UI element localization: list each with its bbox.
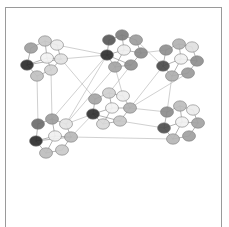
- graph-node: [130, 35, 143, 45]
- graph-node: [103, 88, 116, 98]
- inter-cluster-edge: [71, 137, 173, 139]
- inter-cluster-edge: [37, 76, 38, 124]
- graph-node: [186, 42, 199, 52]
- graph-node: [182, 68, 195, 78]
- graph-node: [158, 123, 171, 133]
- graph-node: [109, 62, 122, 72]
- graph-node: [32, 119, 45, 129]
- graph-node: [55, 54, 68, 64]
- graph-node: [167, 134, 180, 144]
- graph-node: [25, 43, 38, 53]
- network-graph-canvas: [0, 0, 229, 227]
- inter-cluster-edge: [61, 55, 107, 59]
- graph-node: [187, 105, 200, 115]
- graph-node: [176, 117, 189, 127]
- graph-node: [174, 101, 187, 111]
- graph-node: [103, 35, 116, 45]
- graph-node: [116, 30, 129, 40]
- graph-node: [45, 65, 58, 75]
- graph-node: [87, 109, 100, 119]
- graph-node: [166, 71, 179, 81]
- inter-cluster-edge: [51, 70, 52, 119]
- graph-node: [114, 116, 127, 126]
- graph-node: [117, 91, 130, 101]
- graph-node: [41, 53, 54, 63]
- inter-cluster-edge: [52, 55, 107, 119]
- graph-node: [30, 136, 43, 146]
- graph-node: [101, 50, 114, 60]
- graph-node: [125, 60, 138, 70]
- graph-node: [21, 60, 34, 70]
- graph-node: [51, 40, 64, 50]
- graph-node: [56, 145, 69, 155]
- graph-node: [191, 56, 204, 66]
- graph-node: [60, 119, 73, 129]
- graph-node: [173, 39, 186, 49]
- graph-node: [183, 131, 196, 141]
- graph-node: [97, 119, 110, 129]
- graph-node: [135, 48, 148, 58]
- graph-node: [31, 71, 44, 81]
- graph-node: [39, 36, 52, 46]
- cluster-C1: [21, 36, 68, 81]
- graph-node: [192, 118, 205, 128]
- inter-cluster-edge: [130, 66, 163, 108]
- graph-node: [106, 103, 119, 113]
- graph-node: [65, 132, 78, 142]
- inter-cluster-edge: [61, 59, 95, 99]
- graph-node: [118, 45, 131, 55]
- graph-node: [124, 103, 137, 113]
- graph-node: [40, 148, 53, 158]
- graph-node: [160, 45, 173, 55]
- graph-node: [46, 114, 59, 124]
- graph-node: [175, 54, 188, 64]
- graph-node: [161, 107, 174, 117]
- node-layer: [21, 30, 205, 158]
- graph-node: [157, 61, 170, 71]
- graph-node: [89, 94, 102, 104]
- figure-root: Hierarchical clustered network graph: [0, 0, 229, 227]
- graph-node: [49, 131, 62, 141]
- inter-cluster-edge: [57, 45, 107, 55]
